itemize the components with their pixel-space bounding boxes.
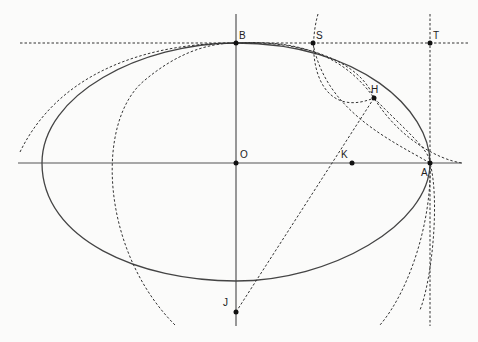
point-h [372, 96, 377, 101]
label-o: O [240, 149, 248, 160]
label-b: B [239, 30, 246, 41]
label-t: T [433, 30, 439, 41]
label-j: J [223, 297, 228, 308]
label-k: K [341, 149, 348, 160]
diagram-canvas: B S T H O K A J [0, 0, 478, 342]
geometry-diagram: B S T H O K A J [0, 0, 478, 342]
point-j [234, 310, 239, 315]
label-a: A [421, 167, 428, 178]
point-k [350, 161, 355, 166]
point-o [234, 161, 239, 166]
dashed-arc-upper [20, 43, 462, 163]
point-a [428, 161, 433, 166]
label-h: H [371, 84, 378, 95]
point-t [428, 41, 433, 46]
point-b [234, 41, 239, 46]
label-s: S [316, 30, 323, 41]
point-s [311, 41, 316, 46]
dashed-line-jh [236, 98, 374, 312]
